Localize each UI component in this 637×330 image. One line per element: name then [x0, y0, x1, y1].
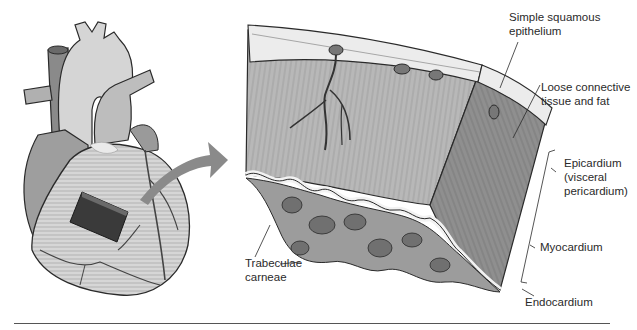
label-line: epithelium: [509, 24, 600, 38]
label-line: Epicardium: [564, 156, 628, 170]
label-line: tissue and fat: [541, 94, 631, 108]
label-line: Loose connective: [541, 80, 631, 94]
bottom-rule: [14, 323, 610, 324]
label-line: Trabeculae: [245, 256, 302, 270]
heart-wall-figure: Simple squamous epithelium Loose connect…: [0, 0, 637, 330]
label-endocardium: Endocardium: [525, 295, 593, 309]
label-myocardium: Myocardium: [540, 240, 603, 254]
heart-illustration: [24, 22, 189, 295]
heart-wall-section: [246, 25, 552, 292]
label-line: carneae: [245, 270, 302, 284]
label-simple-squamous-epithelium: Simple squamous epithelium: [509, 10, 600, 38]
diagram-canvas: [0, 0, 637, 330]
label-loose-connective-tissue: Loose connective tissue and fat: [541, 80, 631, 108]
label-line: pericardium): [564, 184, 628, 198]
label-line: (visceral: [564, 170, 628, 184]
label-epicardium: Epicardium (visceral pericardium): [564, 156, 628, 198]
label-trabeculae-carneae: Trabeculae carneae: [245, 256, 302, 284]
label-line: Simple squamous: [509, 10, 600, 24]
